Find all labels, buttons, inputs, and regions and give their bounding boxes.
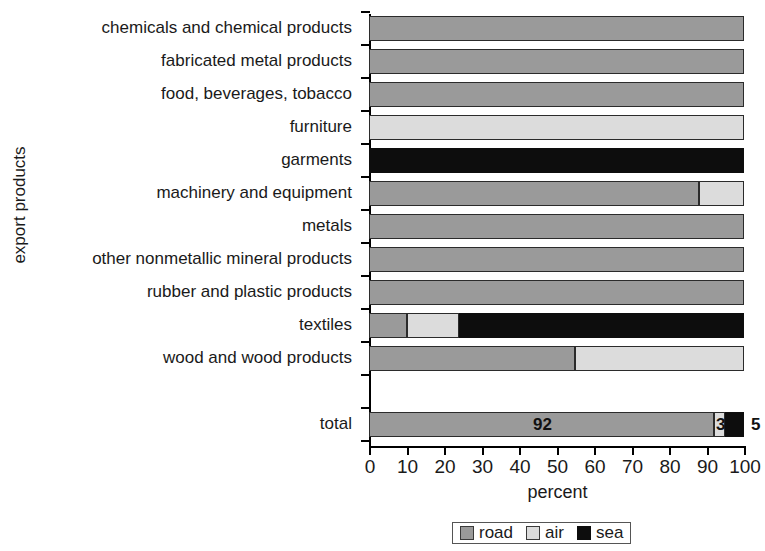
road-swatch [460, 526, 474, 540]
category-label: machinery and equipment [156, 184, 352, 201]
x-axis-tick-label: 100 [721, 457, 765, 476]
y-axis-tick [361, 407, 370, 409]
legend-item-air[interactable]: air [526, 524, 564, 541]
x-axis-tick [669, 446, 671, 455]
bar-row[interactable] [370, 115, 745, 140]
bar-segment-sea[interactable] [459, 313, 744, 338]
x-axis-tick [632, 446, 634, 455]
category-label-column: chemicals and chemical productsfabricate… [20, 14, 360, 446]
sea-swatch [577, 526, 591, 540]
y-axis-tick [361, 77, 370, 79]
bar-value-label-road: 92 [370, 412, 715, 437]
y-axis-tick [361, 143, 370, 145]
x-axis-tick [557, 446, 559, 455]
bar-segment-road[interactable] [369, 280, 744, 305]
legend-label: sea [596, 524, 623, 541]
x-axis-tick [744, 446, 746, 455]
x-axis-tick [594, 446, 596, 455]
x-axis-tick [707, 446, 709, 455]
category-label: textiles [299, 316, 352, 333]
y-axis-tick [361, 374, 370, 376]
bar-row[interactable] [370, 49, 745, 74]
category-label: chemicals and chemical products [102, 19, 352, 36]
bar-row[interactable] [370, 280, 745, 305]
y-axis-tick [361, 242, 370, 244]
legend-label: road [479, 524, 513, 541]
bar-segment-sea[interactable] [725, 412, 744, 437]
legend: roadairsea [452, 522, 631, 544]
category-label: metals [302, 217, 352, 234]
bar-row[interactable] [370, 148, 745, 173]
category-label: furniture [290, 118, 352, 135]
bar-segment-air[interactable] [575, 346, 744, 371]
bar-segment-air[interactable] [369, 115, 744, 140]
legend-item-sea[interactable]: sea [577, 524, 623, 541]
category-label: food, beverages, tobacco [161, 85, 352, 102]
bar-row[interactable]: 9235 [370, 412, 745, 437]
y-axis-tick [361, 176, 370, 178]
y-axis-tick [361, 44, 370, 46]
category-label: fabricated metal products [161, 52, 352, 69]
x-axis-tick [482, 446, 484, 455]
bar-segment-air[interactable] [699, 181, 744, 206]
y-axis-tick [361, 209, 370, 211]
category-label: garments [281, 151, 352, 168]
bar-segment-road[interactable] [369, 247, 744, 272]
bar-value-label-sea: 5 [751, 412, 765, 437]
bar-segment-road[interactable] [369, 346, 575, 371]
air-swatch [526, 526, 540, 540]
bar-segment-road[interactable] [369, 82, 744, 107]
legend-item-road[interactable]: road [460, 524, 513, 541]
bar-segment-road[interactable] [369, 181, 699, 206]
y-axis-tick [361, 440, 370, 442]
x-axis: percent 0102030405060708090100 [370, 446, 745, 506]
y-axis-tick [361, 341, 370, 343]
bar-segment-air[interactable] [407, 313, 460, 338]
x-axis-tick [407, 446, 409, 455]
y-axis-tick [361, 308, 370, 310]
x-axis-tick [444, 446, 446, 455]
category-label: other nonmetallic mineral products [92, 250, 352, 267]
legend-label: air [545, 524, 564, 541]
bar-segment-road[interactable] [369, 313, 407, 338]
y-axis-tick [361, 275, 370, 277]
bar-segment-sea[interactable] [369, 148, 744, 173]
bar-row[interactable] [370, 181, 745, 206]
bar-row[interactable] [370, 313, 745, 338]
plot-area: 9235 [370, 14, 745, 446]
category-label: rubber and plastic products [147, 283, 352, 300]
bar-row[interactable] [370, 82, 745, 107]
x-axis-title: percent [370, 482, 745, 503]
category-label: wood and wood products [163, 349, 352, 366]
bar-segment-road[interactable] [369, 16, 744, 41]
bar-row[interactable] [370, 16, 745, 41]
x-axis-tick [519, 446, 521, 455]
bar-row[interactable] [370, 247, 745, 272]
y-axis-tick [361, 110, 370, 112]
bar-row[interactable] [370, 214, 745, 239]
bar-segment-road[interactable] [369, 49, 744, 74]
bar-row[interactable] [370, 346, 745, 371]
category-label: total [320, 415, 352, 432]
y-axis-tick [361, 11, 370, 13]
bar-segment-road[interactable] [369, 214, 744, 239]
x-axis-tick [369, 446, 371, 455]
